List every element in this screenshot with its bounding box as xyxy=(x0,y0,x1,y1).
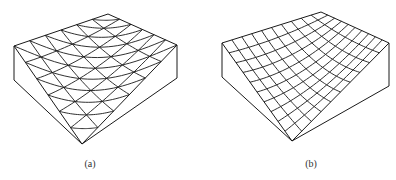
mesh-line-diagonal xyxy=(37,78,146,91)
mesh-line-diagonal xyxy=(48,95,130,103)
figure: (a) (b) xyxy=(0,0,396,180)
mesh-line-v xyxy=(278,37,375,122)
top-front-left-edge xyxy=(14,46,82,144)
mesh-line-v xyxy=(236,18,335,62)
top-front-right-edge xyxy=(82,45,177,144)
mesh-line-diagonal xyxy=(92,19,119,20)
panel-a-triangular-mesh xyxy=(14,19,177,128)
panel-a-triangular-mesh-block xyxy=(14,14,177,144)
mesh-line-diagonal xyxy=(71,128,98,129)
mesh-line-v xyxy=(229,15,328,53)
panel-b-quad-mesh-block xyxy=(222,12,389,141)
panel-b-caption: (b) xyxy=(305,158,317,170)
panel-a-caption: (a) xyxy=(84,158,95,170)
mesh-line-v xyxy=(271,34,369,112)
top-back-edge xyxy=(14,14,177,46)
mesh-line-diagonal xyxy=(45,35,154,48)
mesh-line-diagonal xyxy=(77,24,131,28)
mesh-line-u xyxy=(301,18,369,62)
mesh-line-diagonal xyxy=(61,30,143,38)
panel-b-top-outline xyxy=(222,12,389,141)
mesh-line-v xyxy=(243,21,341,72)
